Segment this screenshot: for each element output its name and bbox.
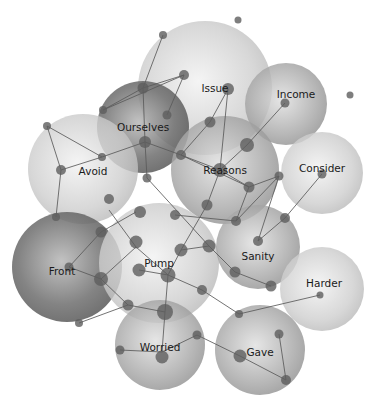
network-edge bbox=[202, 290, 239, 314]
network-node bbox=[163, 111, 172, 120]
bubble-harder bbox=[280, 247, 364, 331]
network-node bbox=[52, 213, 60, 221]
bubble-label-front: Front bbox=[49, 265, 76, 277]
network-node bbox=[244, 182, 255, 193]
network-node bbox=[94, 272, 108, 286]
network-node bbox=[281, 375, 291, 385]
network-node bbox=[240, 138, 254, 152]
network-node bbox=[253, 236, 263, 246]
network-node bbox=[56, 165, 66, 175]
network-node bbox=[280, 213, 290, 223]
bubble-label-harder: Harder bbox=[306, 277, 343, 289]
stray-node bbox=[235, 17, 242, 24]
network-node bbox=[231, 216, 241, 226]
network-node bbox=[230, 267, 241, 278]
network-node bbox=[157, 304, 173, 320]
network-node bbox=[130, 236, 143, 249]
network-node bbox=[170, 210, 180, 220]
bubble-label-ourselves: Ourselves bbox=[117, 121, 169, 133]
network-node bbox=[75, 319, 83, 327]
network-node bbox=[98, 153, 106, 161]
network-node bbox=[96, 227, 107, 238]
network-node bbox=[139, 136, 151, 148]
bubble-label-income: Income bbox=[277, 88, 316, 100]
network-node bbox=[266, 281, 277, 292]
network-node bbox=[275, 172, 284, 181]
network-node bbox=[175, 244, 188, 257]
network-node bbox=[123, 300, 134, 311]
bubble-label-consider: Consider bbox=[299, 162, 346, 174]
bubble-label-issue: Issue bbox=[201, 82, 228, 94]
bubble-label-gave: Gave bbox=[246, 346, 273, 358]
network-node bbox=[193, 331, 202, 340]
network-node bbox=[235, 310, 243, 318]
network-node bbox=[138, 83, 149, 94]
network-node bbox=[161, 268, 176, 283]
network-node bbox=[234, 350, 247, 363]
network-node bbox=[143, 174, 152, 183]
network-node bbox=[116, 346, 125, 355]
bubble-label-worried: Worried bbox=[140, 341, 181, 353]
bubble-network-diagram: IssueIncomeOurselvesAvoidReasonsConsider… bbox=[0, 0, 377, 410]
network-node bbox=[104, 194, 114, 204]
network-node bbox=[317, 292, 324, 299]
diagram-canvas: IssueIncomeOurselvesAvoidReasonsConsider… bbox=[0, 0, 377, 410]
bubble-label-reasons: Reasons bbox=[203, 164, 247, 176]
network-node bbox=[159, 31, 167, 39]
network-node bbox=[43, 122, 51, 130]
network-node bbox=[99, 106, 107, 114]
network-node bbox=[134, 206, 146, 218]
network-node bbox=[176, 150, 186, 160]
network-node bbox=[203, 240, 216, 253]
stray-node bbox=[347, 92, 354, 99]
network-node bbox=[202, 200, 213, 211]
network-node bbox=[179, 70, 189, 80]
bubble-label-sanity: Sanity bbox=[241, 250, 274, 262]
network-node bbox=[205, 117, 216, 128]
network-node bbox=[275, 330, 284, 339]
bubble-label-pump: Pump bbox=[144, 257, 174, 269]
bubble-label-avoid: Avoid bbox=[79, 165, 108, 177]
network-node bbox=[197, 285, 207, 295]
